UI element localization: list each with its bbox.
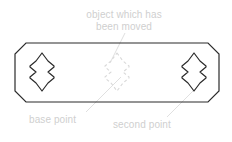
label-object-moved-line2: been moved: [96, 21, 152, 32]
label-second-point: second point: [113, 119, 171, 131]
diagram-canvas: object which hasbeen moved base point se…: [0, 0, 232, 142]
leader-base-point-line: [86, 77, 121, 112]
right-lozenge-shape: [182, 53, 206, 91]
label-object-moved: object which hasbeen moved: [86, 9, 162, 32]
leader-lines: [86, 33, 198, 117]
chamfered-plate-outline: [15, 43, 219, 102]
center-lozenge-ghost-shape: [105, 53, 129, 91]
left-lozenge-shape: [30, 53, 54, 91]
label-object-moved-line1: object which has: [86, 9, 162, 20]
label-base-point: base point: [29, 114, 76, 126]
